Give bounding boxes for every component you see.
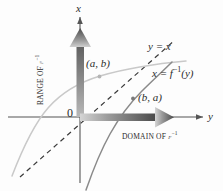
horizontal-axis-label: y — [208, 111, 213, 122]
domain-arrow — [80, 107, 174, 128]
range-of-exponent: −1 — [34, 55, 40, 61]
point-label-a-b: (a, b) — [86, 58, 110, 69]
inverse-curve-label: x = f−1(y) — [152, 66, 194, 79]
domain-of-exponent: −1 — [171, 130, 177, 136]
point-marker-a-b — [98, 75, 102, 79]
range-arrow — [70, 28, 92, 117]
inverse-curve-prefix: x = — [152, 67, 170, 79]
horizontal-axis-arrowhead — [196, 114, 203, 120]
point-marker-b-a — [131, 97, 135, 101]
inverse-curve-argument: (y) — [181, 67, 193, 79]
domain-of-inverse-label: DOMAIN OF f−1 — [122, 131, 178, 140]
range-of-inverse-label: RANGE OF f−1 — [35, 55, 44, 105]
vertical-axis-label: x — [76, 3, 81, 14]
origin-label: 0 — [67, 107, 73, 119]
identity-line-label: y = x — [148, 41, 171, 52]
range-arrow-shaft — [77, 44, 85, 117]
domain-arrow-shaft — [80, 114, 156, 122]
vertical-axis-arrowhead — [77, 17, 83, 24]
point-label-b-a: (b, a) — [138, 92, 162, 103]
range-of-function-symbol: f — [36, 61, 45, 64]
inverse-function-diagram: x y 0 RANGE OF f−1 DOMAIN OF f−1 (a, b) … — [0, 0, 223, 191]
diagram-canvas — [0, 0, 223, 191]
range-of-text: RANGE OF — [36, 64, 45, 105]
domain-arrow-head — [155, 107, 174, 128]
domain-of-text: DOMAIN OF — [122, 132, 168, 141]
range-arrow-head — [70, 28, 92, 47]
